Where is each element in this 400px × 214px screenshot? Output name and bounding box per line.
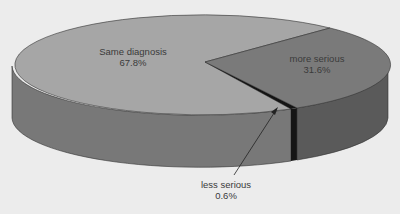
label-more-serious-name: more serious: [290, 53, 345, 64]
pie-chart: Same diagnosis 67.8% more serious 31.6% …: [0, 0, 400, 214]
label-more-serious-value: 31.6%: [304, 64, 331, 75]
label-less-serious-name: less serious: [201, 179, 251, 190]
slice-less-serious-side: [291, 108, 297, 161]
label-same-diagnosis-value: 67.8%: [120, 57, 147, 68]
label-same-diagnosis-name: Same diagnosis: [99, 46, 167, 57]
label-less-serious-value: 0.6%: [215, 190, 237, 201]
